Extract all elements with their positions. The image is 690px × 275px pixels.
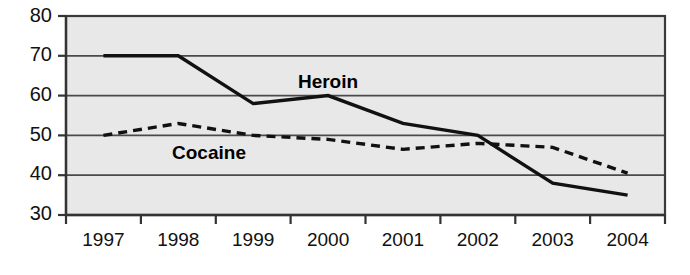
y-tick-label-70: 70 xyxy=(30,43,52,65)
series-annotation-heroin: Heroin xyxy=(298,71,358,92)
x-tick-marks xyxy=(66,215,665,224)
x-tick-label-2000: 2000 xyxy=(307,229,349,250)
y-tick-label-80: 80 xyxy=(30,4,52,26)
y-tick-label-30: 30 xyxy=(30,202,52,224)
chart-svg: 30 40 50 60 70 80 1997 1998 1999 2000 20… xyxy=(0,0,690,275)
series-annotation-cocaine: Cocaine xyxy=(172,142,246,163)
x-tick-labels: 1997 1998 1999 2000 2001 2002 2003 2004 xyxy=(82,229,649,250)
y-tick-label-60: 60 xyxy=(30,83,52,105)
x-tick-label-2002: 2002 xyxy=(457,229,499,250)
x-tick-label-1997: 1997 xyxy=(82,229,124,250)
y-tick-label-50: 50 xyxy=(30,123,52,145)
x-tick-label-2004: 2004 xyxy=(606,229,649,250)
x-tick-label-1998: 1998 xyxy=(157,229,199,250)
x-tick-label-1999: 1999 xyxy=(232,229,274,250)
line-chart: 30 40 50 60 70 80 1997 1998 1999 2000 20… xyxy=(0,0,690,275)
y-tick-label-40: 40 xyxy=(30,162,52,184)
x-tick-label-2001: 2001 xyxy=(382,229,424,250)
y-tick-labels: 30 40 50 60 70 80 xyxy=(30,4,52,224)
x-tick-label-2003: 2003 xyxy=(532,229,574,250)
